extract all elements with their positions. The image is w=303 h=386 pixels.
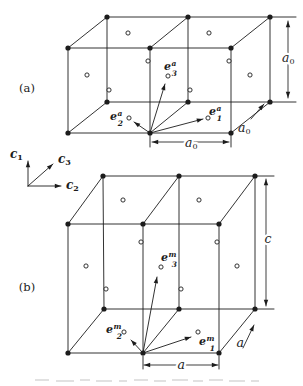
panel-b-face-center-atoms [84, 198, 239, 334]
axis-c1: c1 [10, 147, 30, 187]
dimension-a0-width: a0 [152, 135, 229, 152]
basis-vector-e2-a: ea2 [110, 109, 150, 134]
dimension-a0-depth: a0 [238, 104, 264, 136]
basis-vector-e1-m: em1 [143, 334, 215, 354]
dimension-label: c1 [10, 147, 23, 163]
basis-vector-e1-a: ea1 [150, 104, 222, 134]
vector-label-e1-a: ea1 [209, 104, 222, 124]
panel-a-label: (a) [19, 81, 35, 95]
vector-label-e3-m: em3 [161, 250, 177, 270]
dimension-label: c3 [58, 152, 71, 168]
cropped-caption-fragment [35, 379, 259, 382]
crystal-axes: c1c2c3 [10, 147, 79, 194]
dimension-label: c2 [66, 178, 79, 194]
panel-a: ea1ea2ea3a0a0a0(a) [19, 14, 296, 151]
panel-a-cell-edges [68, 17, 296, 147]
dimension-label: a0 [282, 50, 295, 67]
crystal-lattice-figure: ea1ea2ea3a0a0a0(a)em1em2em3caa(b)c1c2c3 [0, 0, 303, 386]
dimension-label: a0 [238, 120, 251, 137]
basis-vector-e2-m: em2 [106, 322, 143, 354]
panel-b: em1em2em3caa(b) [19, 173, 274, 371]
dimension-a0-height: a0 [282, 21, 295, 98]
dimension-c-height: c [264, 179, 272, 306]
dimension-label: a [178, 357, 185, 372]
vector-label-e2-m: em2 [106, 322, 122, 342]
dimension-label: a [237, 335, 244, 350]
vector-label-e1-m: em1 [199, 334, 215, 354]
panel-b-label: (b) [19, 280, 35, 294]
dimension-a-width: a [144, 357, 218, 372]
panel-a-face-center-atoms [85, 31, 252, 120]
figure-canvas: ea1ea2ea3a0a0a0(a)em1em2em3caa(b)c1c2c3 [0, 0, 303, 386]
dimension-label: c [265, 231, 272, 246]
axis-c3: c3 [28, 152, 71, 187]
vector-label-e2-a: ea2 [110, 109, 123, 129]
dimension-label: a0 [185, 135, 198, 152]
